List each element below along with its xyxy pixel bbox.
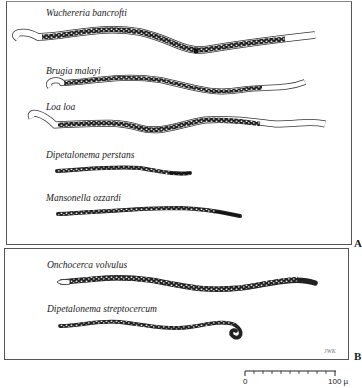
scale-start-label: 0 <box>243 377 247 386</box>
panel-letter-a: A <box>354 237 362 249</box>
species-label: Onchocerca volvulus <box>47 260 127 270</box>
species-label: Mansonella ozzardi <box>46 193 121 203</box>
worm-dipetalonema-perstans <box>57 167 190 173</box>
species-label: Brugia malayi <box>46 66 101 76</box>
worm-wuchereria-bancrofti <box>16 30 315 54</box>
scale-bar: 0 100 µ <box>244 370 349 388</box>
scale-ruler <box>244 370 339 378</box>
worm-loa-loa <box>31 113 325 130</box>
worm-dipetalonema-streptocercum <box>60 322 241 338</box>
panel-letter-b: B <box>354 350 361 362</box>
worm-mansonella-ozzardi <box>58 208 240 216</box>
species-label: Dipetalonema perstans <box>46 150 134 160</box>
artist-signature: JWK <box>324 348 336 354</box>
species-label: Loa loa <box>46 102 75 112</box>
species-label: Dipetalonema streptocercum <box>47 304 157 314</box>
worm-onchocerca-volvulus <box>57 278 315 289</box>
worm-brugia-malayi <box>49 78 305 92</box>
scale-end-label: 100 µ <box>328 377 348 386</box>
species-label: Wuchereria bancrofti <box>46 8 127 18</box>
